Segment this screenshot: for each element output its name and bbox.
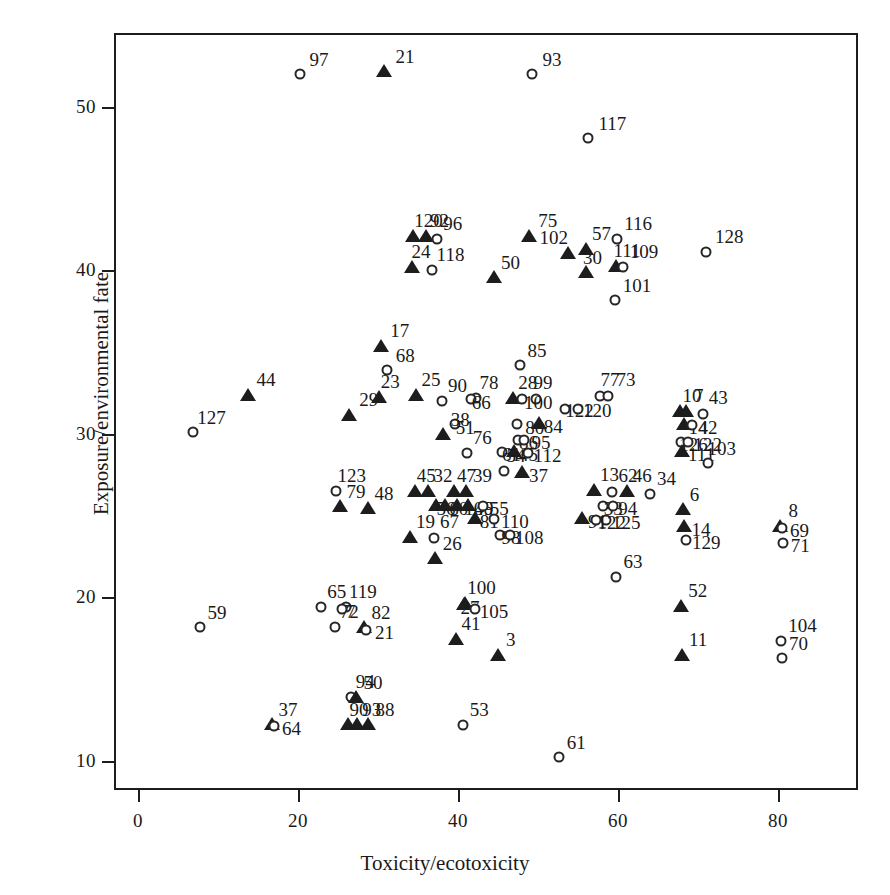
filled-triangle-marker [619, 484, 635, 497]
open-circle-marker [645, 489, 656, 500]
point-label: 37 [278, 700, 297, 719]
filled-triangle-marker [458, 484, 474, 497]
open-circle-marker [777, 538, 788, 549]
y-tick-40 [102, 270, 114, 272]
y-axis-label-wrap: Exposure/environmental fate [14, 0, 54, 790]
open-circle-marker [316, 601, 327, 612]
open-circle-marker [527, 68, 538, 79]
point-label: 78 [480, 373, 499, 392]
point-label: 48 [374, 484, 393, 503]
open-circle-marker [489, 513, 500, 524]
point-label: 82 [371, 603, 390, 622]
point-label: 52 [688, 581, 707, 600]
open-circle-marker [432, 234, 443, 245]
open-circle-marker [195, 621, 206, 632]
point-label: 59 [207, 603, 226, 622]
point-label: 119 [349, 582, 377, 601]
point-label: 93 [542, 50, 561, 69]
point-label: 13 [600, 465, 619, 484]
point-label: 112 [534, 446, 562, 465]
filled-triangle-marker [674, 648, 690, 661]
x-tick-label-0: 0 [112, 810, 164, 832]
x-tick-label-40: 40 [432, 810, 484, 832]
open-circle-marker [607, 487, 618, 498]
point-label: 101 [623, 276, 652, 295]
y-tick-label-30: 30 [50, 423, 96, 445]
y-tick-label-10: 10 [50, 750, 96, 772]
x-tick-0 [138, 790, 140, 802]
open-circle-marker [294, 68, 305, 79]
point-label: 37 [529, 466, 548, 485]
point-label: 96 [443, 214, 462, 233]
open-circle-marker [361, 624, 372, 635]
point-label: 43 [709, 388, 728, 407]
filled-triangle-marker [490, 648, 506, 661]
point-label: 21 [395, 47, 414, 66]
filled-triangle-marker [341, 408, 357, 421]
filled-triangle-marker [373, 339, 389, 352]
open-circle-marker [269, 721, 280, 732]
filled-triangle-marker [427, 551, 443, 564]
point-label: 63 [623, 552, 642, 571]
point-label: 105 [480, 602, 509, 621]
point-label: 76 [473, 428, 492, 447]
point-label: 97 [310, 50, 329, 69]
point-label: 88 [375, 700, 394, 719]
filled-triangle-marker [360, 717, 376, 730]
point-label: 109 [630, 242, 659, 261]
point-label: 44 [257, 370, 276, 389]
point-label: 17 [390, 321, 409, 340]
point-label: 54 [507, 446, 526, 465]
point-label: 57 [592, 224, 611, 243]
open-circle-marker [437, 395, 448, 406]
y-tick-label-40: 40 [50, 259, 96, 281]
filled-triangle-marker [435, 427, 451, 440]
point-label: 103 [708, 439, 737, 458]
point-label: 7 [694, 386, 704, 405]
open-circle-marker [477, 500, 488, 511]
point-label: 71 [791, 536, 810, 555]
x-tick-label-20: 20 [272, 810, 324, 832]
open-circle-marker [188, 426, 199, 437]
point-label: 50 [501, 253, 520, 272]
x-axis-label: Toxicity/ecotoxicity [0, 851, 890, 876]
point-label: 8 [788, 501, 798, 520]
point-label: 65 [327, 582, 346, 601]
open-circle-marker [457, 719, 468, 730]
open-circle-marker [617, 261, 628, 272]
point-label: 25 [421, 370, 440, 389]
point-label: 85 [528, 341, 547, 360]
filled-triangle-marker [240, 388, 256, 401]
point-label: 23 [381, 372, 400, 391]
filled-triangle-marker [673, 599, 689, 612]
point-label: 32 [434, 466, 453, 485]
y-tick-10 [102, 761, 114, 763]
open-circle-marker [461, 448, 472, 459]
point-label: 120 [583, 401, 612, 420]
open-circle-marker [498, 466, 509, 477]
point-label: 90 [448, 376, 467, 395]
point-label: 3 [506, 630, 516, 649]
filled-triangle-marker [376, 64, 392, 77]
open-circle-marker [429, 533, 440, 544]
point-label: 117 [598, 114, 626, 133]
open-circle-marker [611, 572, 622, 583]
open-circle-marker [702, 458, 713, 469]
open-circle-marker [608, 500, 619, 511]
point-label: 73 [616, 370, 635, 389]
x-tick-label-60: 60 [592, 810, 644, 832]
open-circle-marker [514, 359, 525, 370]
open-circle-marker [505, 529, 516, 540]
x-tick-label-80: 80 [752, 810, 804, 832]
x-tick-20 [298, 790, 300, 802]
y-tick-30 [102, 434, 114, 436]
open-circle-marker [681, 534, 692, 545]
point-label: 116 [624, 214, 652, 233]
point-label: 6 [690, 485, 700, 504]
open-circle-marker [553, 752, 564, 763]
open-circle-marker [686, 420, 697, 431]
filled-triangle-marker [678, 404, 694, 417]
filled-triangle-marker [675, 502, 691, 515]
point-label: 46 [633, 466, 652, 485]
point-label: 38 [451, 410, 470, 429]
